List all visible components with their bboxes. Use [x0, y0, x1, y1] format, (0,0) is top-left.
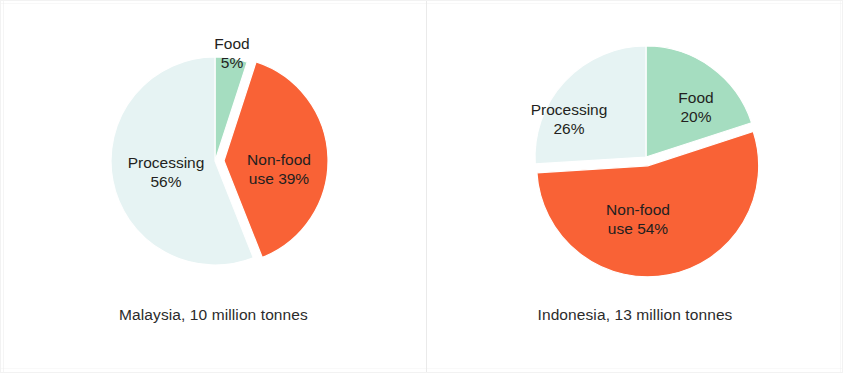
- pie-svg-indonesia: Food20%Non-fooduse 54%Processing26%: [426, 1, 843, 301]
- pie-chart-malaysia: Food5%Non-fooduse 39%Processing56%: [1, 1, 426, 301]
- pie-svg-malaysia: Food5%Non-fooduse 39%Processing56%: [1, 1, 426, 301]
- chart-panel-indonesia: Food20%Non-fooduse 54%Processing26% Indo…: [426, 1, 843, 373]
- pie-chart-figure: Food5%Non-fooduse 39%Processing56% Malay…: [0, 0, 843, 373]
- caption-malaysia: Malaysia, 10 million tonnes: [1, 306, 426, 324]
- chart-panel-malaysia: Food5%Non-fooduse 39%Processing56% Malay…: [1, 1, 426, 373]
- caption-indonesia: Indonesia, 13 million tonnes: [426, 306, 843, 324]
- pie-chart-indonesia: Food20%Non-fooduse 54%Processing26%: [426, 1, 843, 301]
